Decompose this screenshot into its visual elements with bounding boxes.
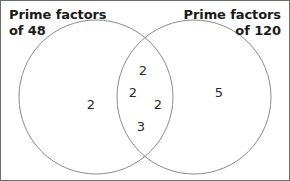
region-value-right-only: 5	[215, 86, 223, 99]
venn-diagram-figure: Prime factors of 48 Prime factors of 120…	[0, 0, 290, 181]
region-value-intersection: 2	[154, 98, 162, 111]
region-value-intersection: 2	[139, 64, 147, 77]
set-label-left: Prime factors of 48	[9, 7, 106, 39]
circle-left-set-48	[19, 20, 173, 174]
set-label-right: Prime factors of 120	[184, 7, 281, 39]
region-value-intersection: 2	[129, 86, 137, 99]
region-value-intersection: 3	[137, 120, 145, 133]
region-value-left-only: 2	[87, 98, 95, 111]
circle-right-set-120	[117, 20, 271, 174]
